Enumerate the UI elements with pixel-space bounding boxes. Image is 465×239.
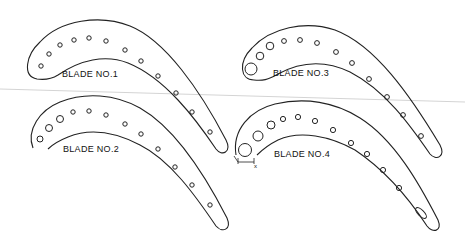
cooling-hole [37,136,43,142]
cooling-hole [71,110,75,114]
cooling-hole [256,52,264,60]
cooling-hole [312,118,317,123]
cooling-hole [156,147,160,151]
cooling-hole [173,165,177,169]
dimension-label: x [254,163,257,169]
cooling-hole [419,134,424,139]
blade-4: BLADE NO.4 [235,101,439,230]
cooling-hole [104,113,108,117]
cooling-hole [282,39,287,44]
cooling-hole [266,42,274,50]
cooling-hole [298,38,303,43]
cooling-hole [267,121,275,129]
cooling-hole [58,43,62,47]
cooling-hole [385,95,390,100]
cooling-hole [72,38,76,42]
cooling-hole [87,36,91,40]
cooling-hole [208,130,212,134]
cooling-hole [245,63,257,75]
blade-label: BLADE NO.1 [62,69,118,79]
cooling-hole [190,183,194,187]
cooling-hole [156,74,160,78]
blade-label: BLADE NO.4 [274,149,330,159]
blade-3: BLADE NO.3 [242,26,441,158]
cooling-hole [350,61,355,66]
blade-2: BLADE NO.2 [31,96,228,230]
cooling-hole [239,144,252,157]
cooling-hole [295,114,300,119]
blade-outline [242,26,441,158]
cooling-hole [348,140,353,145]
cooling-hole [208,203,212,207]
blade-label: BLADE NO.2 [63,144,119,154]
scan-guide-line [0,89,465,102]
blade-outline [27,20,227,153]
cooling-hole [139,132,143,136]
cooling-hole [280,116,285,121]
blades-group: BLADE NO.1BLADE NO.2BLADE NO.3BLADE NO.4 [27,20,441,230]
cooling-hole [139,59,143,63]
cooling-hole [57,116,64,123]
cooling-hole [104,39,108,43]
blade-outline [235,101,439,230]
blade-drawing: BLADE NO.1BLADE NO.2BLADE NO.3BLADE NO.4… [0,0,465,239]
dimension-leader [234,156,238,162]
cooling-hole [39,64,43,68]
cooling-hole [364,151,369,156]
blade-1: BLADE NO.1 [27,20,227,153]
cooling-hole [330,127,335,132]
cooling-hole [174,91,178,95]
cooling-hole [123,48,127,52]
blade-label: BLADE NO.3 [273,68,329,78]
cooling-hole [253,131,263,141]
cooling-hole [190,110,194,114]
dimension-annotation: x [234,156,257,169]
cooling-hole [87,109,91,113]
cooling-hole [123,122,127,126]
cooling-hole [47,52,51,56]
cooling-hole [46,125,53,132]
cooling-hole [367,77,372,82]
cooling-hole [334,50,339,55]
cooling-hole [315,41,320,46]
